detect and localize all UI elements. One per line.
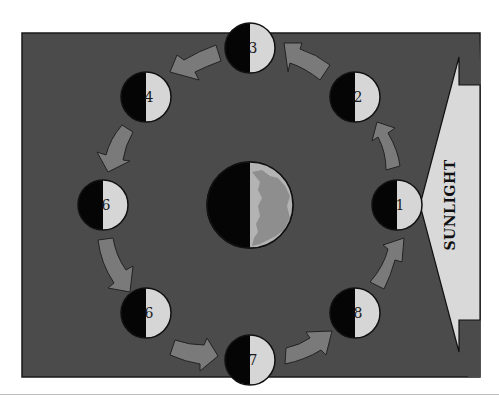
moon-phase-label: 7: [249, 352, 258, 368]
moon-phase-8: 8: [330, 288, 380, 338]
moon-phase-label: 2: [354, 89, 363, 105]
moon-phase-3: 3: [225, 23, 275, 73]
moon-phase-1: 1: [372, 180, 422, 230]
moon-phase-label: 8: [354, 305, 363, 321]
moon-phase-label: 6: [145, 305, 154, 321]
earth: [207, 162, 293, 248]
moon-phase-7: 7: [225, 335, 275, 385]
sunlight-label: SUNLIGHT: [442, 159, 458, 250]
moon-phase-label: 3: [249, 40, 258, 56]
moon-phase-6: 6: [121, 288, 171, 338]
moon-phase-label: 4: [145, 89, 154, 105]
moon-phase-5: 6: [78, 180, 128, 230]
moon-phases-diagram: SUNLIGHT 12346678: [0, 0, 499, 400]
moon-phase-2: 2: [330, 72, 380, 122]
moon-phase-label: 1: [396, 197, 405, 213]
moon-phase-4: 4: [121, 72, 171, 122]
moon-phase-label: 6: [102, 197, 111, 213]
bottom-divider: [0, 394, 499, 395]
